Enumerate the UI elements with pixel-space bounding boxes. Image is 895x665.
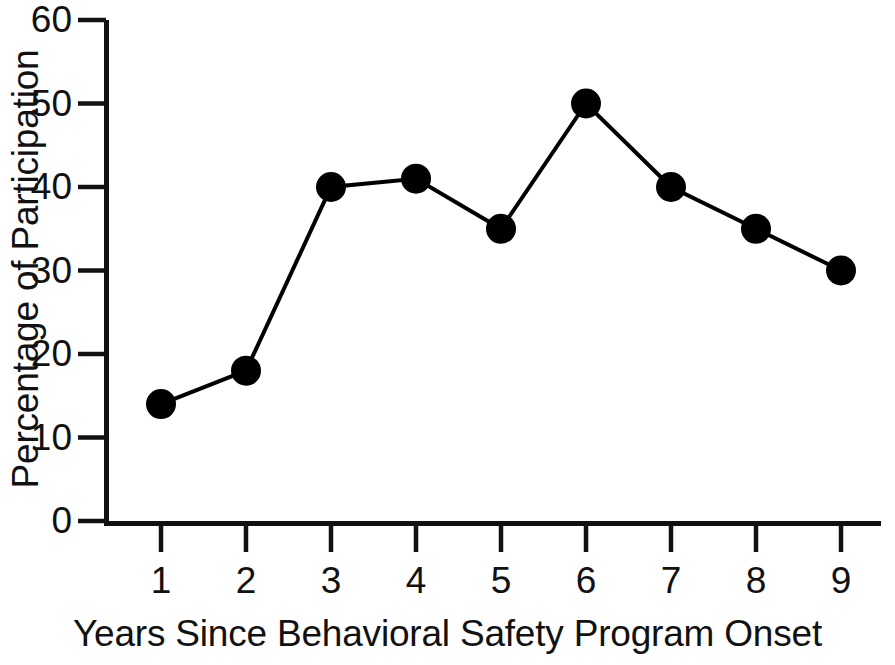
data-point-marker [571,89,601,119]
series-line [161,104,841,405]
data-point-marker [486,214,516,244]
data-point-marker [146,389,176,419]
x-axis-tick-label: 9 [811,562,871,599]
x-axis-tick-label: 8 [726,562,786,599]
data-point-marker [656,172,686,202]
x-axis-tick-label: 1 [131,562,191,599]
series-markers [146,89,856,420]
y-axis-title: Percentage of Participation [2,0,50,549]
line-chart: 0102030405060 123456789 Years Since Beha… [0,0,895,665]
x-axis-title: Years Since Behavioral Safety Program On… [0,612,895,656]
data-point-marker [316,172,346,202]
x-axis-tick-label: 4 [386,562,446,599]
x-axis-ticks [161,524,841,552]
x-axis-tick-label: 2 [216,562,276,599]
x-axis-tick-label: 3 [301,562,361,599]
data-point-marker [826,256,856,286]
data-point-marker [741,214,771,244]
y-axis-ticks [78,20,106,521]
data-point-marker [231,356,261,386]
axes-group [78,20,881,552]
x-axis-tick-label: 7 [641,562,701,599]
x-axis-tick-label: 5 [471,562,531,599]
data-point-marker [401,164,431,194]
x-axis-tick-label: 6 [556,562,616,599]
data-series-group [146,89,856,420]
